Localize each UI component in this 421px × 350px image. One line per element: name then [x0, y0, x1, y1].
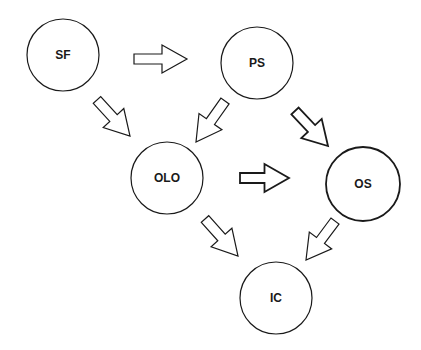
diagram-canvas: SFPSOLOOSIC — [0, 0, 421, 350]
node-sf: SF — [27, 19, 99, 91]
arrow-icon-olo-to-ic — [201, 216, 238, 256]
arrow-icon-sf-to-ps — [134, 45, 187, 73]
node-os: OS — [326, 147, 400, 221]
diagram-svg: SFPSOLOOSIC — [0, 0, 421, 350]
arrow-icon-ps-to-olo — [196, 98, 229, 142]
node-label: SF — [55, 48, 70, 62]
node-label: PS — [249, 56, 265, 70]
arrow-icon-sf-to-olo — [93, 97, 130, 136]
nodes-layer: SFPSOLOOSIC — [27, 19, 400, 334]
edges-layer — [93, 45, 339, 260]
arrow-icon-os-to-ic — [306, 218, 339, 260]
node-ps: PS — [221, 27, 293, 99]
arrow-icon-olo-to-os — [240, 164, 289, 192]
arrow-icon-ps-to-os — [291, 108, 328, 146]
node-olo: OLO — [131, 142, 203, 214]
node-label: IC — [270, 291, 282, 305]
node-ic: IC — [240, 262, 312, 334]
node-label: OLO — [154, 171, 180, 185]
node-label: OS — [354, 177, 371, 191]
